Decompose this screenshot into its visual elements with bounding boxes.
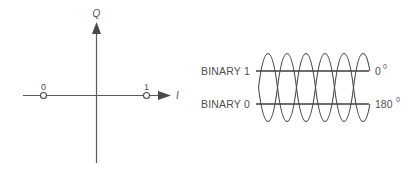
constellation-marker-1	[144, 93, 150, 99]
constellation-point-label-1: 1	[144, 82, 149, 92]
constellation-point-0: 0	[41, 82, 47, 99]
waveform-panel: BINARY 1 BINARY 0 0 0 180 0	[201, 54, 400, 122]
constellation-panel: I Q 0 1	[23, 8, 179, 163]
phase-value-0: 0	[375, 65, 381, 77]
degree-symbol-0-icon: 0	[383, 63, 387, 70]
waveform-row-label-binary-1: BINARY 1	[201, 65, 250, 77]
phase-label-180: 180 0	[375, 96, 400, 110]
diagram-canvas: I Q 0 1 BINARY 1 BINARY 0	[0, 0, 410, 174]
q-axis-label: Q	[93, 8, 101, 19]
phase-value-180: 180	[375, 98, 393, 110]
sine-wave-phase-180	[259, 54, 370, 122]
degree-symbol-180-icon: 0	[396, 96, 400, 103]
i-axis-label: I	[176, 90, 179, 101]
bpsk-figure: I Q 0 1 BINARY 1 BINARY 0	[0, 0, 410, 174]
constellation-point-1: 1	[144, 82, 150, 99]
constellation-point-label-0: 0	[41, 82, 46, 92]
i-axis-arrow-icon	[158, 91, 171, 100]
waveform-row-label-binary-0: BINARY 0	[201, 98, 250, 110]
phase-label-0: 0 0	[375, 63, 387, 77]
constellation-marker-0	[41, 93, 47, 99]
q-axis-arrow-icon	[92, 22, 101, 34]
